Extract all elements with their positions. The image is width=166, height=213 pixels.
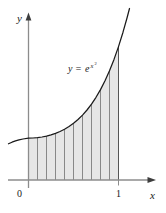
curve-equation-exponent-variable: x — [90, 62, 94, 69]
curve-equation-lhs: y = — [67, 63, 82, 74]
y-axis-label: y — [16, 12, 22, 24]
integral-area-figure: y x 0 1 y = e x 2 — [0, 0, 166, 213]
curve-equation-label: y = e x 2 — [67, 61, 97, 75]
y-axis-arrowhead — [26, 13, 32, 21]
x-axis-label: x — [149, 189, 155, 201]
curve-equation-base: e — [85, 63, 90, 74]
origin-label: 0 — [17, 188, 22, 199]
figure-container: y x 0 1 y = e x 2 — [0, 0, 166, 213]
x-axis-arrowhead — [148, 177, 157, 183]
curve-equation-exponent-power: 2 — [95, 61, 97, 66]
x-tick-label-one: 1 — [116, 188, 121, 199]
